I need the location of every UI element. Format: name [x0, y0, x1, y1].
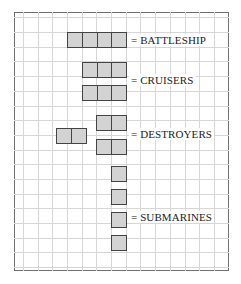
ship-cell [97, 140, 112, 154]
destroyer [96, 139, 127, 155]
grid-line [23, 12, 24, 271]
submarine [111, 166, 127, 182]
ship-cell [112, 236, 126, 250]
ship-cell [112, 86, 126, 100]
ship-cell [112, 63, 126, 77]
grid-line [170, 12, 171, 271]
cruiser [82, 85, 127, 101]
destroyers-label: = DESTROYERS [129, 128, 214, 140]
grid-line [14, 252, 229, 253]
submarine [111, 189, 127, 205]
grid-line [140, 12, 141, 271]
battleship-label: = BATTLESHIP [129, 34, 208, 46]
ship-cell [112, 167, 126, 181]
grid-line [52, 12, 53, 271]
ship-cell [112, 140, 126, 154]
grid-line [155, 12, 156, 271]
ship-cell [112, 213, 126, 227]
grid-line [199, 12, 200, 271]
ship-cell [83, 63, 98, 77]
cruiser [82, 62, 127, 78]
cruisers-label: = CRUISERS [129, 74, 196, 86]
grid-line [14, 17, 229, 18]
ship-cell [68, 33, 83, 47]
destroyer [96, 115, 127, 131]
ship-cell [112, 190, 126, 204]
ship-cell [83, 86, 98, 100]
grid-line [14, 164, 229, 165]
grid-line [214, 12, 215, 271]
grid-line [14, 106, 229, 107]
submarine [111, 235, 127, 251]
submarine [111, 212, 127, 228]
ship-cell [98, 63, 113, 77]
grid-line [14, 208, 229, 209]
battleship [67, 32, 127, 48]
grid-line [14, 267, 229, 268]
ship-cell [112, 116, 126, 130]
submarines-label: = SUBMARINES [129, 211, 214, 223]
ship-cell [98, 33, 113, 47]
destroyer [56, 128, 87, 144]
ship-cell [98, 86, 113, 100]
ship-cell [83, 33, 98, 47]
ship-cell [72, 129, 86, 143]
grid-line [185, 12, 186, 271]
ship-cell [97, 116, 112, 130]
ship-cell [57, 129, 72, 143]
grid-line [38, 12, 39, 271]
ship-cell [112, 33, 126, 47]
